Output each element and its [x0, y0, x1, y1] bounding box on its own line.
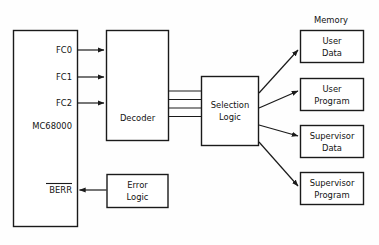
selection-to-user-program-arrow — [259, 91, 298, 108]
block-diagram: MC68000 FC0 FC1 FC2 BERR Decoder Selecti… — [0, 0, 379, 245]
fc1-label: FC1 — [56, 72, 72, 82]
mc68000-label: MC68000 — [32, 121, 72, 131]
decoder-box — [107, 31, 169, 141]
error-logic-label-line2: Logic — [127, 192, 149, 202]
fc0-label: FC0 — [56, 45, 72, 55]
supervisor-data-label-line1: Supervisor — [310, 131, 355, 141]
selection-logic-label-line2: Logic — [219, 112, 241, 122]
user-data-label-line2: Data — [322, 48, 342, 58]
diagram-canvas: MC68000 FC0 FC1 FC2 BERR Decoder Selecti… — [0, 0, 379, 245]
selection-to-supervisor-program-arrow — [259, 142, 298, 186]
user-program-label-line2: Program — [314, 96, 349, 106]
decoder-selection-bus — [169, 91, 202, 117]
selection-logic-label-line1: Selection — [211, 100, 250, 110]
error-logic-label-line1: Error — [127, 180, 148, 190]
user-data-label-line1: User — [322, 36, 342, 46]
user-program-label-line1: User — [322, 84, 342, 94]
supervisor-data-label-line2: Data — [322, 143, 342, 153]
supervisor-program-label-line2: Program — [314, 190, 349, 200]
decoder-label: Decoder — [120, 113, 156, 123]
supervisor-program-label-line1: Supervisor — [310, 178, 355, 188]
selection-to-user-data-arrow — [259, 50, 298, 93]
fc2-label: FC2 — [56, 98, 72, 108]
memory-group-label: Memory — [314, 15, 348, 25]
berr-label: BERR — [49, 185, 72, 195]
selection-to-supervisor-data-arrow — [259, 125, 298, 136]
